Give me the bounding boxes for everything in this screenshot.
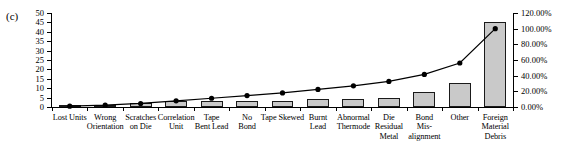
cumulative-marker	[315, 87, 320, 92]
cumulative-marker	[280, 90, 285, 95]
pareto-chart-figure: (c) 05101520253035404550 0.00%20.00%40.0…	[0, 0, 581, 150]
x-axis-tick	[87, 108, 88, 111]
cumulative-marker	[244, 93, 249, 98]
left-axis-line	[51, 13, 52, 108]
bar	[378, 98, 400, 107]
right-axis-tick	[514, 29, 518, 30]
left-axis-tick-label: 0	[20, 103, 44, 111]
left-axis-tick-label: 10	[20, 84, 44, 92]
x-axis-tick	[158, 108, 159, 111]
left-axis-tick	[47, 88, 51, 89]
bar	[307, 99, 329, 107]
x-axis-tick	[52, 108, 53, 111]
right-axis-tick	[514, 60, 518, 61]
right-axis-tick	[514, 13, 518, 14]
right-axis-tick-label: 60.00%	[521, 56, 547, 64]
right-axis-tick	[514, 107, 518, 108]
bar	[484, 22, 506, 107]
x-axis-tick	[265, 108, 266, 111]
bar	[449, 83, 471, 107]
right-axis-tick	[514, 91, 518, 92]
left-axis-tick	[47, 13, 51, 14]
right-axis-tick-label: 80.00%	[521, 40, 547, 48]
left-axis-tick-label: 5	[20, 94, 44, 102]
right-axis-tick-label: 20.00%	[521, 87, 547, 95]
cumulative-marker	[351, 83, 356, 88]
cumulative-marker	[422, 72, 427, 77]
bar	[94, 105, 116, 107]
right-axis-tick	[514, 76, 518, 77]
x-axis-tick	[407, 108, 408, 111]
bar	[236, 101, 258, 107]
right-axis-tick-label: 100.00%	[521, 25, 551, 33]
x-axis-tick	[336, 108, 337, 111]
left-axis-tick-label: 40	[20, 28, 44, 36]
right-axis-tick-label: 120.00%	[521, 9, 551, 17]
x-axis-tick	[123, 108, 124, 111]
panel-label: (c)	[6, 10, 18, 22]
left-axis-tick	[47, 107, 51, 108]
bar	[272, 101, 294, 107]
right-axis-tick	[514, 44, 518, 45]
x-axis-tick	[300, 108, 301, 111]
left-axis-tick-label: 30	[20, 47, 44, 55]
left-axis-tick	[47, 79, 51, 80]
x-axis-tick	[194, 108, 195, 111]
x-axis-tick	[371, 108, 372, 111]
bar	[165, 101, 187, 107]
x-axis-label: Foreign Material Debris	[463, 113, 528, 141]
left-axis-tick-label: 15	[20, 75, 44, 83]
left-axis-tick	[47, 69, 51, 70]
left-axis-tick-label: 20	[20, 65, 44, 73]
cumulative-marker	[457, 60, 462, 65]
right-axis-tick-label: 40.00%	[521, 72, 547, 80]
left-axis-tick-label: 25	[20, 56, 44, 64]
left-axis-tick	[47, 22, 51, 23]
bar	[342, 99, 364, 107]
left-axis-tick	[47, 51, 51, 52]
x-axis-tick	[229, 108, 230, 111]
bar	[59, 105, 81, 107]
left-axis-tick	[47, 41, 51, 42]
x-axis-tick	[513, 108, 514, 111]
bar	[413, 92, 435, 107]
left-axis-tick-label: 50	[20, 9, 44, 17]
left-axis-tick	[47, 60, 51, 61]
bar	[130, 103, 152, 107]
left-axis-tick-label: 45	[20, 18, 44, 26]
left-axis-tick-label: 35	[20, 37, 44, 45]
x-axis-tick	[478, 108, 479, 111]
bar	[201, 101, 223, 107]
x-axis-tick	[442, 108, 443, 111]
left-axis-tick	[47, 32, 51, 33]
right-axis-tick-label: 0.00%	[521, 103, 543, 111]
left-axis-tick	[47, 98, 51, 99]
x-axis-baseline	[52, 107, 514, 108]
cumulative-marker	[386, 79, 391, 84]
cumulative-marker	[209, 96, 214, 101]
